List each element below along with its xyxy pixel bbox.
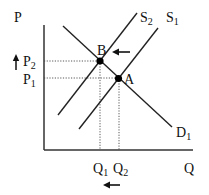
point-label-b: B xyxy=(97,43,106,58)
y-axis-label: P xyxy=(14,10,22,25)
price-label-p2: P2 xyxy=(23,54,36,71)
supply-demand-diagram: P Q S2 S1 D1 B A P2 P1 Q1 Q2 xyxy=(0,0,209,195)
equilibrium-point-b xyxy=(96,57,103,64)
curve-label-s1: S1 xyxy=(166,10,179,27)
arrow-left-icon xyxy=(112,49,130,56)
supply-curve-s2 xyxy=(58,13,137,115)
quantity-label-q1: Q1 xyxy=(93,161,108,178)
curve-label-s2: S2 xyxy=(140,10,153,27)
price-label-p1: P1 xyxy=(23,72,36,89)
arrow-left-icon xyxy=(103,182,120,189)
quantity-label-q2: Q2 xyxy=(113,161,128,178)
curve-label-d1: D1 xyxy=(176,125,191,142)
equilibrium-point-a xyxy=(115,75,122,82)
x-axis-label: Q xyxy=(184,161,194,176)
arrow-up-icon xyxy=(13,54,19,70)
point-label-a: A xyxy=(124,72,135,87)
